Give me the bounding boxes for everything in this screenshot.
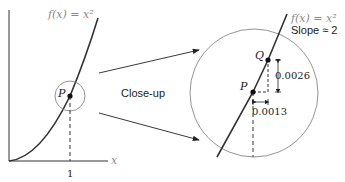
- arrow-top: [99, 50, 199, 73]
- point-q: [265, 57, 270, 62]
- x-tick-label: 1: [67, 168, 73, 179]
- tangent-curve: [217, 14, 287, 157]
- run-label: 0.0013: [252, 106, 287, 117]
- closeup-arrows: Close-up: [99, 50, 199, 140]
- closeup-label: Close-up: [121, 87, 165, 99]
- parabola-curve: [9, 18, 98, 161]
- point-q-label: Q: [255, 49, 264, 62]
- x-axis-label: x: [111, 154, 118, 167]
- point-p: [67, 93, 72, 98]
- point-p-right-label: P: [239, 80, 248, 93]
- diagram-canvas: P f(x) = x² x 1 Close-up P Q 0.0026: [0, 0, 345, 182]
- left-graph: P f(x) = x² x 1: [9, 8, 118, 179]
- run-dimension: [253, 99, 268, 105]
- right-graph: P Q 0.0026 0.0013 f(x) = x² Slope ≈ 2: [190, 12, 337, 157]
- slope-label: Slope ≈ 2: [291, 24, 337, 36]
- function-label: f(x) = x²: [47, 8, 94, 21]
- point-p-label: P: [57, 87, 66, 100]
- rise-label: 0.0026: [275, 70, 310, 81]
- arrow-bottom: [99, 113, 199, 140]
- point-p-right: [250, 89, 255, 94]
